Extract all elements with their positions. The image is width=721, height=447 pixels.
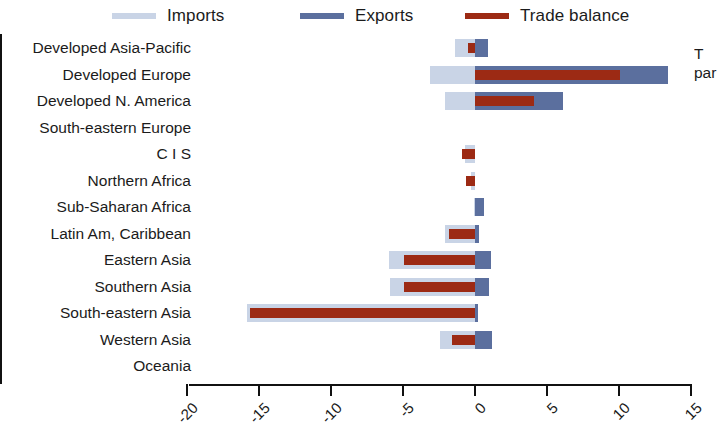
category-label: Western Asia — [0, 332, 191, 347]
legend-label-trade-balance: Trade balance — [520, 6, 629, 26]
category-label: Latin Am, Caribbean — [0, 226, 191, 241]
legend-swatch-exports — [300, 13, 344, 19]
chart-legend: Imports Exports Trade balance — [0, 2, 710, 30]
category-label: South-eastern Europe — [0, 120, 191, 135]
legend-label-exports: Exports — [355, 6, 413, 26]
axis-tick-label: 5 — [526, 399, 561, 434]
category-label: Developed N. America — [0, 93, 191, 108]
bar-trade-balance — [250, 308, 475, 318]
bar-trade-balance — [475, 96, 534, 106]
axis-tick — [330, 384, 332, 396]
category-label: Northern Africa — [0, 173, 191, 188]
axis-tick-label: -10 — [310, 399, 345, 434]
bar-exports — [475, 39, 488, 57]
axis-tick — [618, 384, 620, 396]
axis-tick-label: 10 — [598, 399, 633, 434]
bar-exports — [475, 331, 492, 349]
clipped-annotation: T par — [694, 44, 721, 82]
bar-trade-balance — [404, 282, 475, 292]
category-label: Oceania — [0, 358, 191, 373]
bar-trade-balance — [466, 176, 475, 186]
axis-tick — [258, 384, 260, 396]
axis-tick — [690, 384, 692, 396]
annotation-line-1: T — [694, 44, 721, 63]
legend-item-exports: Exports — [300, 2, 413, 30]
bar-exports — [475, 225, 479, 243]
bar-exports — [475, 251, 491, 269]
bar-imports — [445, 92, 475, 110]
category-label: Eastern Asia — [0, 252, 191, 267]
axis-tick-label: 15 — [670, 399, 705, 434]
bar-exports — [475, 198, 484, 216]
bar-exports — [475, 278, 489, 296]
category-label: Developed Asia-Pacific — [0, 40, 191, 55]
bar-trade-balance — [468, 43, 475, 53]
bar-exports — [475, 304, 478, 322]
axis-line — [189, 384, 692, 386]
legend-label-imports: Imports — [167, 6, 224, 26]
category-label: Southern Asia — [0, 279, 191, 294]
category-label: Sub-Saharan Africa — [0, 199, 191, 214]
bar-imports — [430, 66, 475, 84]
zero-baseline — [0, 34, 2, 384]
category-label: South-eastern Asia — [0, 305, 191, 320]
axis-tick — [546, 384, 548, 396]
axis-tick-label: -20 — [166, 399, 201, 434]
legend-swatch-imports — [112, 13, 156, 19]
annotation-line-2: par — [694, 63, 721, 82]
legend-item-trade-balance: Trade balance — [465, 2, 629, 30]
bar-trade-balance — [404, 255, 475, 265]
axis-tick-label: 0 — [454, 399, 489, 434]
legend-swatch-trade-balance — [465, 13, 509, 19]
axis-tick — [402, 384, 404, 396]
category-label: Developed Europe — [0, 67, 191, 82]
axis-tick-label: -15 — [238, 399, 273, 434]
plot-area: Developed Asia-PacificDeveloped EuropeDe… — [0, 34, 710, 384]
bar-trade-balance — [452, 335, 475, 345]
axis-tick-label: -5 — [382, 399, 417, 434]
bar-trade-balance — [475, 70, 620, 80]
bar-trade-balance — [462, 149, 475, 159]
category-label: C I S — [0, 146, 191, 161]
axis-tick — [186, 384, 188, 396]
axis-tick — [474, 384, 476, 396]
legend-item-imports: Imports — [112, 2, 224, 30]
value-axis: -20-15-10-5051015 — [0, 384, 710, 447]
bar-trade-balance — [449, 229, 475, 239]
